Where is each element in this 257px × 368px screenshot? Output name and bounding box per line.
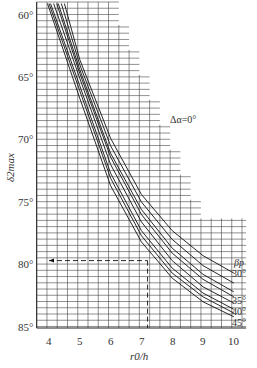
legend-45: 45° bbox=[232, 317, 246, 328]
y-tick-65: 65° bbox=[18, 71, 33, 83]
x-tick-8: 8 bbox=[170, 335, 176, 347]
x-tick-7: 7 bbox=[139, 335, 145, 347]
delta-alpha-annotation: Δα=0° bbox=[170, 114, 196, 125]
y-axis-label: δ2max bbox=[4, 153, 16, 182]
y-tick-80: 80° bbox=[18, 258, 33, 270]
x-axis-label: r0/h bbox=[130, 350, 148, 362]
series-curve bbox=[57, 4, 234, 297]
x-tick-6: 6 bbox=[108, 335, 114, 347]
chart-plot bbox=[0, 0, 257, 368]
y-tick-85: 85° bbox=[18, 321, 33, 333]
y-tick-60: 60° bbox=[18, 9, 33, 21]
x-tick-10: 10 bbox=[228, 335, 239, 347]
y-tick-70: 70° bbox=[18, 133, 33, 145]
y-tick-75: 75° bbox=[18, 196, 33, 208]
x-tick-4: 4 bbox=[46, 335, 52, 347]
legend-title: βp bbox=[234, 257, 244, 268]
series-curve bbox=[58, 4, 234, 292]
legend-35: 35° bbox=[232, 295, 246, 306]
x-tick-9: 9 bbox=[200, 335, 206, 347]
legend-40: 40° bbox=[232, 306, 246, 317]
legend-30: 30° bbox=[232, 268, 246, 279]
x-tick-5: 5 bbox=[77, 335, 83, 347]
